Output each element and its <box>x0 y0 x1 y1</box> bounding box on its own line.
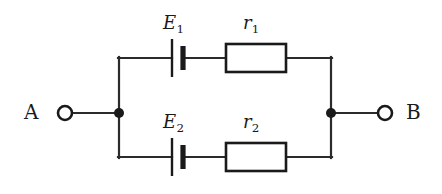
battery-top-label-base: E <box>163 12 176 33</box>
battery-bottom-label: E2 <box>163 113 184 131</box>
terminal-ring-a <box>58 106 72 120</box>
circuit-diagram: A B E1 r1 E2 r2 <box>0 0 442 194</box>
resistor-top-body <box>226 44 286 72</box>
junction-dot-right <box>326 108 336 118</box>
resistor-bottom-label-sub: 2 <box>252 121 260 135</box>
battery-bottom-label-base: E <box>163 111 176 132</box>
battery-top-label-sub: 1 <box>176 22 184 36</box>
resistor-top-label-base: r <box>243 12 252 33</box>
battery-bottom-label-sub: 2 <box>176 121 184 135</box>
terminal-label-b: B <box>406 102 421 122</box>
terminal-ring-b <box>378 106 392 120</box>
battery-top-label: E1 <box>163 14 184 32</box>
resistor-bottom-body <box>226 143 286 171</box>
junction-dot-left <box>114 108 124 118</box>
circuit-schematic-canvas <box>0 0 442 194</box>
resistor-top-label-sub: 1 <box>252 22 260 36</box>
resistor-bottom-label-base: r <box>243 111 252 132</box>
terminal-label-a: A <box>24 102 38 122</box>
resistor-bottom-label: r2 <box>243 113 259 131</box>
resistor-top-label: r1 <box>243 14 259 32</box>
